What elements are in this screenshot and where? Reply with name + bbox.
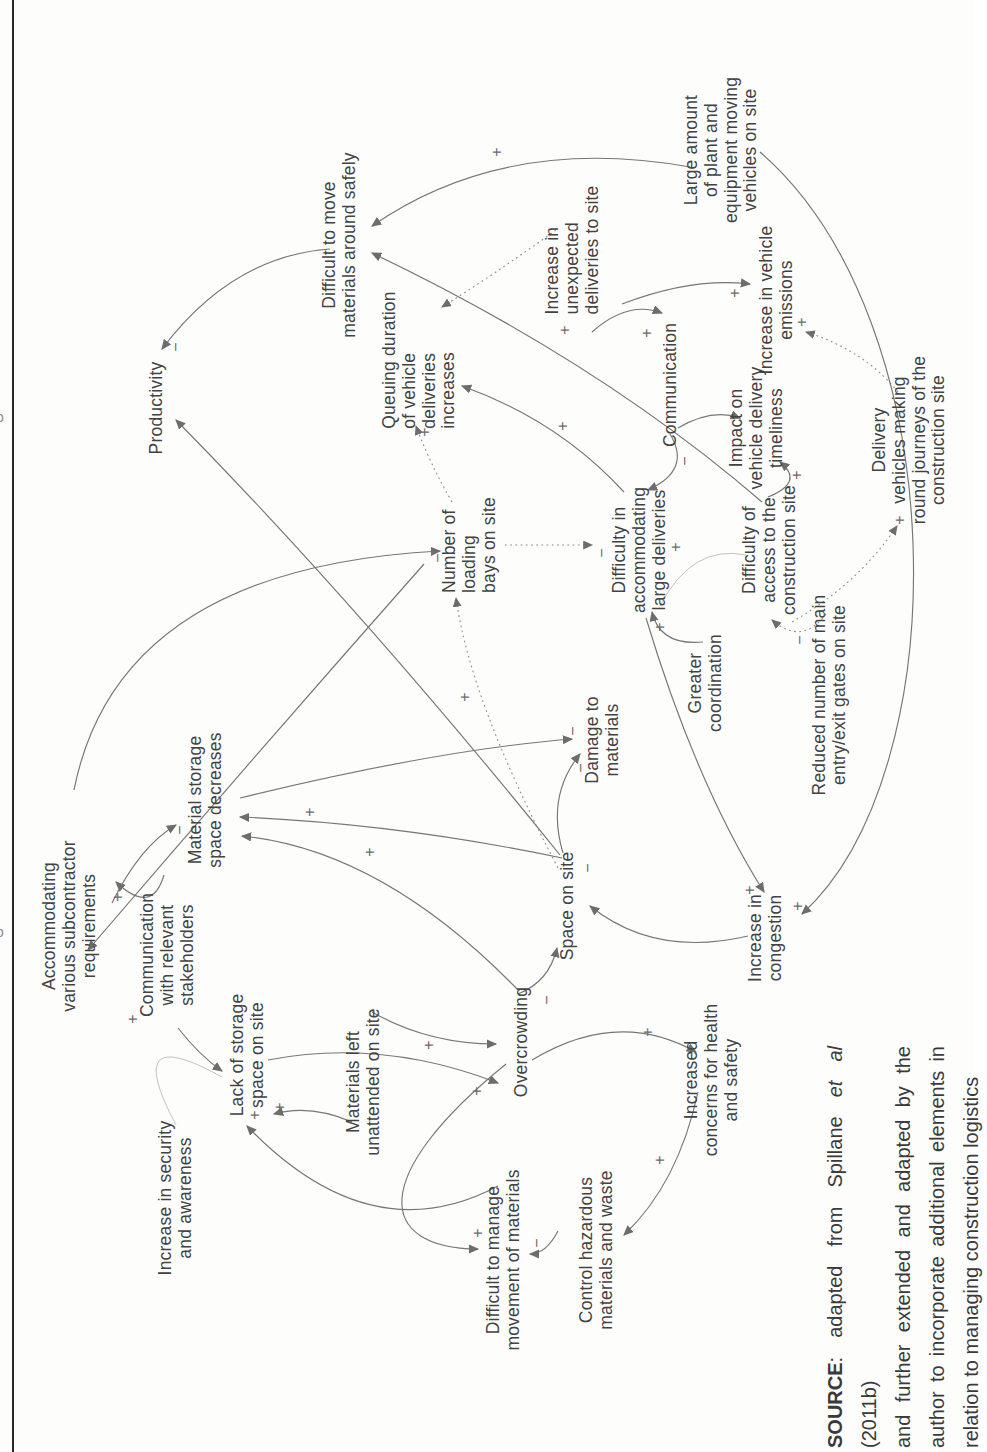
polarity-sign: + <box>470 1228 486 1237</box>
edge-materials-left-to-lack-storage <box>274 1110 352 1122</box>
polarity-sign: + <box>457 692 473 701</box>
polarity-sign: − <box>677 456 693 465</box>
polarity-sign: − <box>792 635 808 644</box>
source-line-1: SOURCE: adapted from Spillane et al (201… <box>818 1046 886 1448</box>
node-comm-stakeholders: Communication with relevant stakeholders <box>138 893 197 1017</box>
node-greater-coordination: Greater coordination <box>686 634 726 732</box>
polarity-sign: + <box>302 807 318 816</box>
polarity-sign: + <box>417 427 433 436</box>
polarity-sign: + <box>794 317 810 326</box>
node-increase-congestion: Increase in congestion <box>746 894 786 982</box>
edge-overcrowding-to-increased-concerns <box>532 1032 696 1060</box>
node-damage-materials: Damage to materials <box>583 696 623 783</box>
polarity-sign: + <box>110 892 126 901</box>
node-increased-concerns: Increased concerns for health and safety <box>682 1004 741 1157</box>
edge-accommodating-subcontractor-to-material-storage <box>112 825 176 903</box>
node-communication: Communication <box>661 323 681 447</box>
edge-space-on-site-to-productivity <box>176 420 560 855</box>
edge-space-on-site-to-material-storage <box>240 817 562 858</box>
node-reduced-gates: Reduced number of main entry/exit gates … <box>810 595 850 796</box>
polarity-sign: + <box>555 421 571 430</box>
edge-materials-left-to-overcrowding <box>372 1012 496 1044</box>
node-delivery-round-journeys: Delivery vehicles making round journeys … <box>870 356 949 525</box>
node-control-hazardous: Control hazardous materials and waste <box>577 1170 617 1329</box>
node-unexpected-deliveries: Increase in unexpected deliveries to sit… <box>543 185 602 314</box>
polarity-sign: − <box>539 995 555 1004</box>
node-impact-timeliness: Impact on vehicle delivery timeliness <box>727 367 786 490</box>
polarity-sign: + <box>652 622 668 631</box>
polarity-sign: + <box>727 288 743 297</box>
edge-overcrowding-to-material-storage <box>242 836 518 990</box>
polarity-sign: + <box>362 847 378 856</box>
edge-comm-stakeholders-to-lack-storage <box>178 1028 222 1071</box>
node-lack-storage: Lack of storage space on site <box>228 994 268 1117</box>
node-vehicle-emissions: Increase in vehicle emissions <box>757 226 797 375</box>
source-line-4: relation to managing construction logist… <box>954 1046 987 1448</box>
node-difficult-manage: Difficult to manage movement of material… <box>484 1169 524 1350</box>
polarity-sign: + <box>125 1014 141 1023</box>
node-overcrowding: Overcrowding <box>512 987 532 1097</box>
polarity-sign: + <box>489 147 505 156</box>
polarity-sign: − <box>580 863 596 872</box>
source-note: SOURCE: adapted from Spillane et al (201… <box>818 1046 987 1448</box>
polarity-sign: + <box>557 325 573 334</box>
polarity-sign: + <box>668 542 684 551</box>
node-difficulty-accommodating: Difficulty in accommodating large delive… <box>610 487 669 613</box>
polarity-sign: + <box>247 1110 263 1119</box>
edge-number-loading-bays-to-queuing-duration <box>416 426 452 502</box>
cropped-edge-glyph: o <box>0 925 4 939</box>
polarity-sign: + <box>421 1040 437 1049</box>
node-security-awareness: Increase in security and awareness <box>156 1121 196 1276</box>
polarity-sign: − <box>573 763 589 772</box>
source-prefix: SOURCE <box>824 1362 846 1448</box>
node-materials-left: Materials left unattended on site <box>344 1008 384 1156</box>
edge-difficulty-access-to-difficulty-accommodating <box>660 553 746 606</box>
polarity-sign: + <box>272 1102 288 1111</box>
polarity-sign: + <box>469 1086 485 1095</box>
polarity-sign: + <box>790 901 806 910</box>
node-difficulty-access: Difficulty of access to the construction… <box>740 485 799 615</box>
edge-large-amount-plant-to-difficult-move <box>372 158 690 226</box>
edge-space-on-site-to-number-loading-bays <box>456 598 558 868</box>
node-material-storage: Material storage space decreases <box>186 732 226 867</box>
cropped-edge-glyph: o <box>0 410 4 424</box>
polarity-sign: + <box>640 1027 656 1036</box>
node-accommodating-subcontractor: Accommodating various subcontractor requ… <box>40 840 99 1012</box>
source-line-3: author to incorporate additional element… <box>920 1046 954 1448</box>
polarity-sign: − <box>529 1238 545 1247</box>
edge-increase-congestion-to-space-on-site <box>590 906 748 943</box>
edge-difficulty-accommodating-to-queuing-duration <box>462 386 624 492</box>
polarity-sign: + <box>789 470 805 479</box>
polarity-sign: + <box>742 885 758 894</box>
node-queuing-duration: Queuing duration of vehicle deliveries i… <box>380 291 459 428</box>
source-line-2: and further extended and adapted by the <box>886 1046 920 1448</box>
polarity-sign: + <box>652 1155 668 1164</box>
polarity-sign: + <box>892 515 908 524</box>
polarity-sign: − <box>430 553 446 562</box>
polarity-sign: − <box>565 726 581 735</box>
polarity-sign: + <box>84 940 100 949</box>
edge-security-awareness-to-lack-storage <box>156 1057 222 1125</box>
node-difficult-move: Difficult to move materials around safel… <box>320 152 360 338</box>
polarity-sign: − <box>172 825 188 834</box>
polarity-sign: + <box>639 328 655 337</box>
edge-difficult-move-to-productivity <box>162 249 330 349</box>
node-space-on-site: Space on site <box>558 852 578 961</box>
edge-material-storage-to-damage-materials <box>240 739 572 798</box>
node-number-loading-bays: Number of loading bays on site <box>440 497 499 593</box>
node-large-amount-plant: Large amount of plant and equipment movi… <box>682 77 761 223</box>
node-productivity: Productivity <box>147 362 167 455</box>
polarity-sign: − <box>168 342 184 351</box>
polarity-sign: − <box>594 548 610 557</box>
